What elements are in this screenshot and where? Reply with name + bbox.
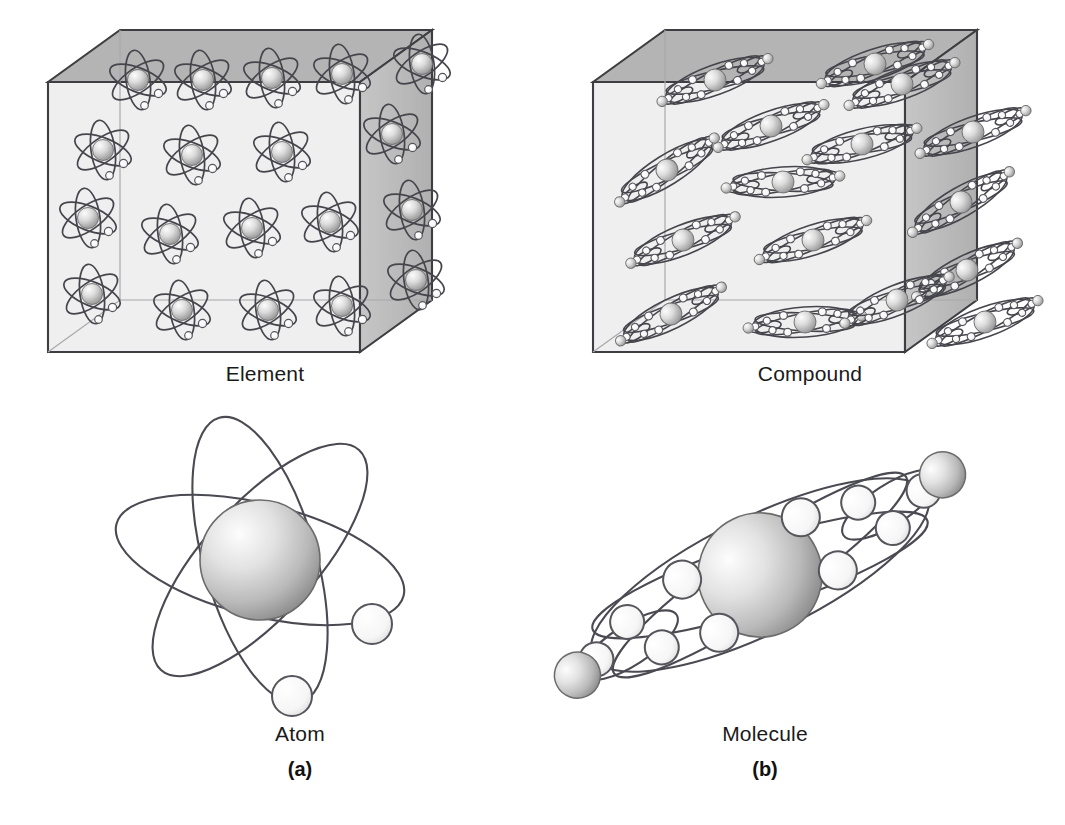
element-box-illustration [30,22,500,372]
molecule-illustration [555,430,975,720]
compound-box-illustration [575,22,1045,372]
compound-box-label: Compound [575,362,1045,386]
atom-detail-panel [110,430,490,720]
atom-illustration [110,430,490,720]
atom-label: Atom [110,722,490,746]
nucleus [200,500,320,620]
electron [352,604,392,644]
atom-diagram [103,402,417,717]
part-label-a: (a) [110,758,490,781]
molecule-diagram [525,418,995,732]
part-label-b: (b) [555,758,975,781]
molecule-detail-panel [555,430,975,720]
compound-box-panel [575,22,1045,372]
molecule-label: Molecule [555,722,975,746]
electron [272,676,312,716]
element-box-label: Element [30,362,500,386]
element-box-panel [30,22,500,372]
